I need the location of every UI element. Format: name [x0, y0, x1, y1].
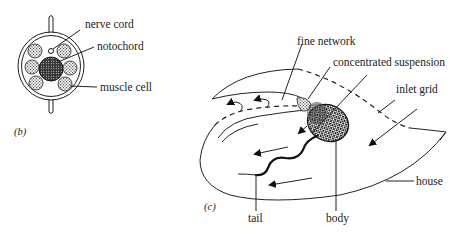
label-body: body	[326, 212, 349, 225]
exit-flow-arrow-2	[255, 99, 269, 108]
concentrated-suspension-leader	[308, 67, 330, 99]
fine-network-leader	[282, 44, 302, 100]
house-lid-inner	[212, 92, 302, 99]
label-inlet-grid: inlet grid	[396, 83, 438, 96]
label-tail: tail	[248, 212, 263, 224]
label-concentrated-suspension: concentrated suspension	[333, 56, 445, 69]
label-fine-network: fine network	[297, 35, 356, 47]
channel-inner-wall	[222, 124, 258, 142]
muscle-cell-leader	[70, 86, 97, 87]
tail-shape	[256, 136, 317, 175]
flow-arrow-lower	[270, 178, 312, 185]
flow-arrow-mid	[255, 147, 288, 154]
label-muscle-cell: muscle cell	[100, 81, 152, 93]
panel-b: nerve cord notochord muscle cell (b)	[14, 16, 152, 139]
channel-dashed	[215, 106, 300, 125]
ventral-fin	[49, 99, 53, 114]
label-house: house	[416, 175, 443, 187]
panel-label-b: (b)	[14, 126, 27, 138]
panel-label-c: (c)	[204, 201, 216, 213]
flow-arrow-inlet	[370, 109, 417, 145]
nerve-cord-shape	[49, 49, 54, 54]
notochord-shape	[39, 57, 63, 81]
house-upper-lobe	[212, 69, 298, 99]
tail-end	[238, 174, 256, 175]
inlet-grid-leader	[378, 100, 395, 113]
label-notochord: notochord	[97, 40, 144, 52]
flow-arrow-body	[299, 126, 307, 133]
panel-c: fine network concentrated suspension inl…	[200, 35, 446, 225]
exit-flow-arrow-1	[228, 102, 242, 112]
dorsal-fin	[49, 16, 53, 34]
figure: nerve cord notochord muscle cell (b)	[0, 0, 463, 236]
label-nerve-cord: nerve cord	[85, 18, 134, 30]
